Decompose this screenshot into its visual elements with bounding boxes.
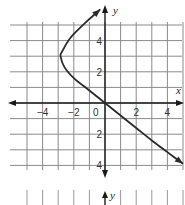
x-tick-label: 2	[133, 107, 139, 118]
origin-label: 0	[93, 107, 99, 118]
x-axis-label: x	[175, 84, 181, 96]
x-tick-label: 4	[165, 107, 171, 118]
x-axis-arrow-left-icon	[8, 100, 16, 106]
y-axis-arrow-down-icon	[102, 170, 108, 178]
y-tick-label: 2	[96, 67, 102, 78]
next-figure-y-arrow-icon	[102, 191, 108, 198]
y-axis-label: y	[112, 4, 118, 16]
y-tick-label: 2	[96, 129, 102, 140]
curve-line	[60, 9, 183, 163]
next-figure-y-label: y	[109, 189, 115, 201]
x-tick-labels: −4−224	[37, 107, 171, 118]
x-tick-label: −4	[37, 107, 49, 118]
y-axis-arrow-up-icon	[102, 5, 108, 13]
y-tick-label: 4	[96, 160, 102, 171]
graph: −4−224 4224 x y 0 y	[0, 0, 185, 205]
x-tick-label: −2	[68, 107, 80, 118]
y-tick-label: 4	[96, 36, 102, 47]
